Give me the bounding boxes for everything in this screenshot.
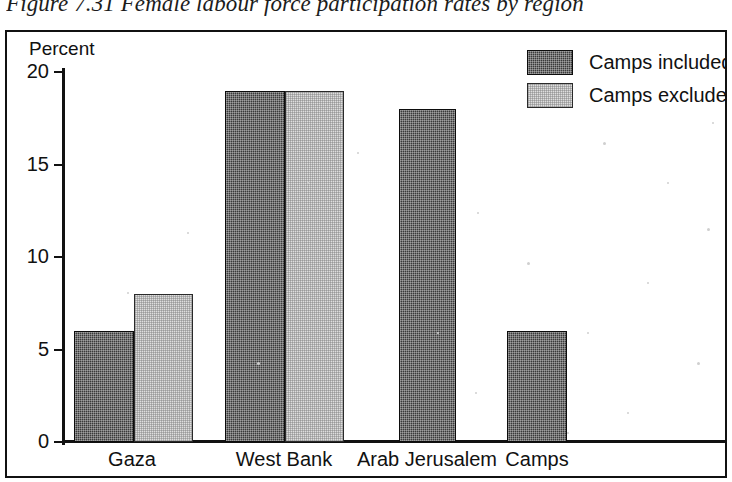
- y-axis-title: Percent: [29, 38, 94, 60]
- figure-caption: Figure 7.31 Female labour force particip…: [6, 0, 726, 21]
- bar: [134, 294, 193, 442]
- plot-area: Percent 05101520 GazaWest BankArab Jerus…: [7, 32, 725, 476]
- legend-label: Camps excluded: [589, 84, 727, 107]
- paper-speck: [567, 432, 569, 434]
- y-tick-mark: [54, 349, 63, 351]
- paper-speck: [357, 152, 359, 154]
- paper-speck: [477, 212, 479, 214]
- bar: [225, 91, 285, 443]
- y-tick-label: 15: [7, 154, 49, 174]
- paper-speck: [587, 332, 589, 334]
- bar: [507, 331, 567, 442]
- legend-item: Camps excluded: [527, 79, 727, 112]
- bar: [285, 91, 344, 443]
- chart-legend: Camps includedCamps excluded: [527, 46, 727, 112]
- x-axis-category-label: Camps: [505, 448, 568, 471]
- x-axis-category-label: Arab Jerusalem: [357, 448, 497, 471]
- paper-speck: [697, 362, 700, 365]
- y-tick-mark: [54, 71, 63, 73]
- bar: [399, 109, 456, 442]
- x-axis-category-label: West Bank: [236, 448, 332, 471]
- paper-speck: [707, 228, 710, 231]
- paper-speck: [667, 182, 669, 184]
- y-tick-label: 5: [7, 339, 49, 359]
- legend-item: Camps included: [527, 46, 727, 79]
- y-tick-mark: [54, 256, 63, 258]
- y-tick-label: 20: [7, 61, 49, 81]
- paper-speck: [527, 262, 530, 265]
- legend-swatch-dark: [527, 50, 573, 75]
- paper-speck: [475, 392, 477, 394]
- bar: [74, 331, 134, 442]
- paper-speck: [187, 232, 189, 234]
- legend-label: Camps included: [589, 51, 727, 74]
- paper-speck: [627, 412, 629, 414]
- paper-speck: [127, 292, 129, 294]
- legend-swatch-light: [527, 83, 573, 108]
- y-tick-label: 0: [7, 431, 49, 451]
- chart-frame: Percent 05101520 GazaWest BankArab Jerus…: [5, 30, 727, 478]
- y-tick-mark: [54, 441, 63, 443]
- y-tick-label: 10: [7, 246, 49, 266]
- paper-speck: [712, 122, 714, 124]
- paper-speck: [647, 282, 649, 284]
- y-tick-mark: [54, 164, 63, 166]
- paper-speck: [603, 142, 606, 145]
- x-axis-category-label: Gaza: [108, 448, 156, 471]
